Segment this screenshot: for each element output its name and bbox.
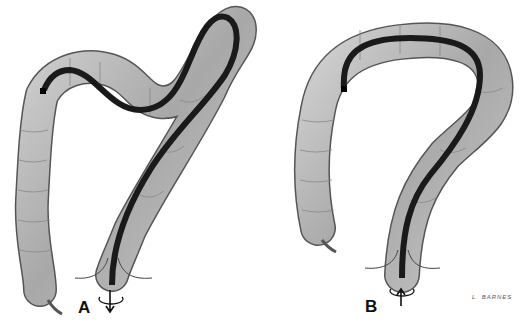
artist-signature: L. BARNES [472, 294, 512, 300]
illustration-canvas [0, 0, 530, 327]
scope-tip-b [341, 86, 347, 92]
panel-b [300, 24, 503, 306]
rotation-arrow-a [99, 297, 123, 304]
scope-tip-a [40, 88, 46, 94]
panel-a [18, 16, 240, 314]
panel-label-b: B [365, 297, 377, 317]
appendix-a [48, 300, 62, 314]
panel-label-a: A [78, 298, 90, 318]
withdraw-arrow-icon [106, 290, 114, 312]
